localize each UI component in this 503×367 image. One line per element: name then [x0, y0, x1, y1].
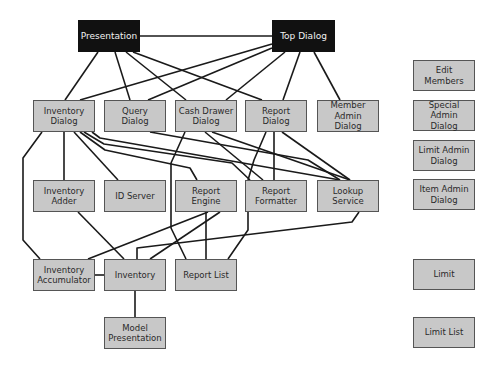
- node-report-list: Report List: [175, 259, 237, 291]
- connector-line: [88, 212, 208, 259]
- node-inventory-adder: Inventory Adder: [33, 180, 95, 212]
- node-report-engine: Report Engine: [175, 180, 237, 212]
- node-lookup-service: Lookup Service: [317, 180, 379, 212]
- node-label: Report Engine: [191, 186, 220, 207]
- node-label: Special Admin Dialog: [414, 100, 474, 132]
- node-limit-admin-dialog: Limit Admin Dialog: [413, 140, 475, 171]
- node-top-dialog: Top Dialog: [272, 20, 335, 52]
- node-label: Report Formatter: [255, 186, 297, 207]
- node-query-dialog: Query Dialog: [104, 100, 166, 132]
- node-label: Limit Admin Dialog: [419, 145, 470, 166]
- node-limit: Limit: [413, 259, 475, 290]
- node-inventory: Inventory: [104, 259, 166, 291]
- connector-line: [126, 52, 186, 100]
- node-label: Inventory Dialog: [44, 106, 85, 127]
- node-special-admin-dialog: Special Admin Dialog: [413, 100, 475, 131]
- connector-line: [283, 52, 300, 100]
- node-item-admin-dialog: Item Admin Dialog: [413, 179, 475, 210]
- node-label: Member Admin Dialog: [318, 100, 378, 132]
- node-label: Limit List: [425, 327, 464, 338]
- node-cash-drawer-dialog: Cash Drawer Dialog: [175, 100, 237, 132]
- node-member-admin-dialog: Member Admin Dialog: [317, 100, 379, 132]
- node-label: Inventory: [115, 270, 156, 281]
- connector-line: [314, 52, 340, 100]
- connector-line: [282, 132, 350, 180]
- node-presentation: Presentation: [78, 20, 140, 52]
- node-label: ID Server: [115, 191, 155, 202]
- node-label: Model Presentation: [108, 323, 161, 344]
- connector-line: [248, 132, 266, 180]
- node-inventory-dialog: Inventory Dialog: [33, 100, 95, 132]
- node-inventory-accumulator: Inventory Accumulator: [33, 259, 95, 291]
- node-label: Top Dialog: [280, 31, 327, 42]
- node-model-presentation: Model Presentation: [104, 317, 166, 349]
- node-label: Edit Members: [424, 65, 463, 86]
- node-report-formatter: Report Formatter: [245, 180, 307, 212]
- node-label: Report List: [183, 270, 229, 281]
- connector-line: [212, 132, 350, 180]
- node-id-server: ID Server: [104, 180, 166, 212]
- connector-line: [115, 52, 130, 100]
- connector-line: [65, 52, 98, 100]
- connector-line: [78, 212, 124, 259]
- connector-line: [150, 212, 220, 259]
- node-label: Item Admin Dialog: [419, 184, 468, 205]
- connector-line: [150, 132, 340, 180]
- node-label: Inventory Accumulator: [37, 265, 91, 286]
- node-label: Lookup Service: [332, 186, 363, 207]
- connector-line: [92, 132, 340, 180]
- node-report-dialog: Report Dialog: [245, 100, 307, 132]
- connector-line: [133, 52, 262, 100]
- node-label: Inventory Adder: [44, 186, 85, 207]
- node-label: Limit: [433, 269, 454, 280]
- node-label: Presentation: [81, 31, 138, 42]
- node-edit-members: Edit Members: [413, 60, 475, 91]
- connector-line: [226, 52, 285, 100]
- node-label: Report Dialog: [262, 106, 290, 127]
- node-label: Cash Drawer Dialog: [179, 106, 234, 127]
- node-limit-list: Limit List: [413, 317, 475, 348]
- node-label: Query Dialog: [121, 106, 148, 127]
